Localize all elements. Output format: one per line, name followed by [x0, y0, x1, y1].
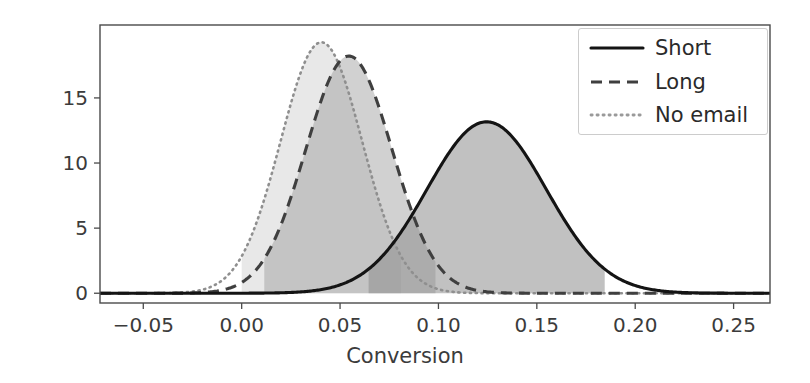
distribution-plot-figure: −0.050.000.050.100.150.200.25 051015 Con…	[0, 0, 810, 383]
legend-item-no-email[interactable]: No email	[589, 100, 748, 130]
y-tick-label: 0	[40, 281, 88, 305]
legend-label-no-email: No email	[655, 105, 748, 126]
chart-legend[interactable]: Short Long No email	[578, 28, 768, 135]
x-axis-label: Conversion	[0, 344, 810, 368]
x-tick-label: 0.25	[711, 313, 756, 337]
legend-line-solid-icon	[589, 39, 645, 57]
chart-page: −0.050.000.050.100.150.200.25 051015 Con…	[0, 0, 810, 383]
y-tick-label: 15	[40, 86, 88, 110]
legend-label-short: Short	[655, 38, 711, 59]
legend-label-long: Long	[655, 72, 706, 93]
x-tick-label: 0.20	[613, 313, 658, 337]
x-axis-tick-marks	[143, 303, 733, 309]
y-axis-tick-marks	[94, 98, 100, 293]
x-tick-label: −0.05	[113, 313, 174, 337]
x-tick-label: 0.05	[318, 313, 363, 337]
legend-item-long[interactable]: Long	[589, 67, 706, 97]
legend-item-short[interactable]: Short	[589, 33, 711, 63]
legend-line-dashed-icon	[589, 73, 645, 91]
x-tick-label: 0.15	[515, 313, 560, 337]
y-tick-label: 10	[40, 151, 88, 175]
x-tick-label: 0.10	[416, 313, 461, 337]
legend-line-dotted-icon	[589, 106, 645, 124]
x-tick-label: 0.00	[219, 313, 264, 337]
y-tick-label: 5	[40, 216, 88, 240]
